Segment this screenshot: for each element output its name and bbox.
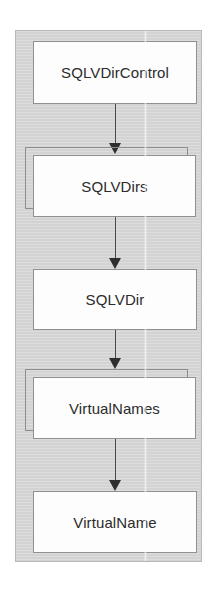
node-sqlvdircontrol-box[interactable]: SQLVDirControl — [33, 41, 197, 104]
arrow-line — [115, 439, 116, 481]
node-virtualnames-label: VirtualNames — [69, 401, 160, 416]
node-sqlvdirs-label: SQLVDirs — [81, 179, 147, 194]
node-sqlvdir[interactable]: SQLVDir — [33, 269, 197, 330]
node-sqlvdirs-box[interactable]: SQLVDirs — [33, 155, 196, 217]
node-virtualname[interactable]: VirtualName — [33, 491, 197, 553]
node-sqlvdir-box[interactable]: SQLVDir — [33, 269, 197, 330]
arrow-line — [115, 330, 116, 359]
node-sqlvdircontrol-label: SQLVDirControl — [61, 65, 169, 80]
diagram-panel: SQLVDirControl SQLVDirs SQLVDir VirtualN… — [15, 30, 202, 562]
arrow-head-icon — [109, 480, 121, 491]
node-sqlvdircontrol[interactable]: SQLVDirControl — [33, 41, 197, 104]
node-virtualname-box[interactable]: VirtualName — [33, 491, 197, 553]
node-sqlvdirs[interactable]: SQLVDirs — [25, 147, 204, 217]
arrow-head-icon — [109, 258, 121, 269]
arrow-head-icon — [109, 358, 121, 369]
arrow-sqlvdir-to-virtualnames — [106, 330, 124, 369]
node-virtualname-label: VirtualName — [73, 515, 156, 530]
arrow-line — [115, 217, 116, 259]
arrow-line — [115, 104, 116, 144]
node-virtualnames-box[interactable]: VirtualNames — [33, 377, 196, 439]
node-virtualnames[interactable]: VirtualNames — [25, 369, 204, 439]
arrow-virtualnames-to-virtualname — [106, 439, 124, 491]
arrow-sqlvdirs-to-sqlvdir — [106, 217, 124, 269]
node-sqlvdir-label: SQLVDir — [86, 292, 145, 307]
